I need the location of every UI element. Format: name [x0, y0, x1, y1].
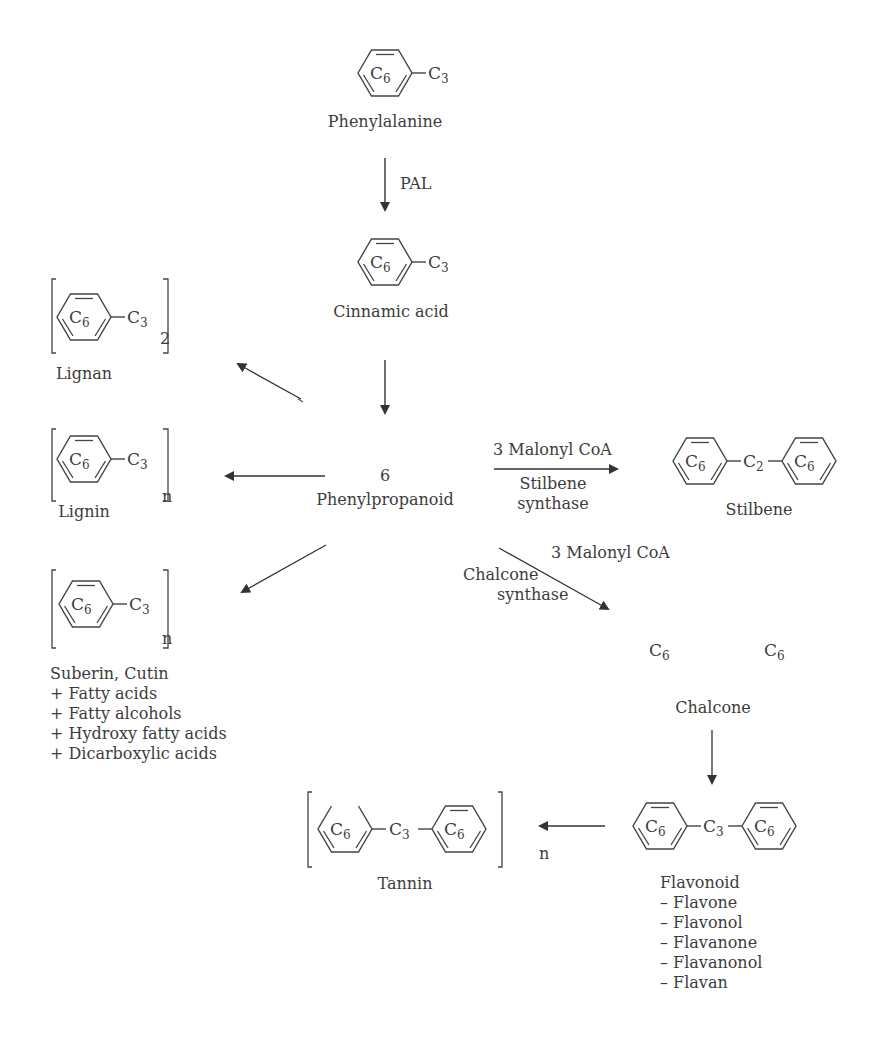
to-lignan-arrow [238, 364, 303, 402]
suberin-description: Suberin, Cutin + Fatty acids + Fatty alc… [50, 664, 227, 764]
phenylpropanoid-label: Phenylpropanoid [316, 490, 454, 510]
svg-text:C6: C6 [69, 449, 90, 472]
stilbene-malonyl-label: 3 Malonyl CoA [493, 440, 612, 460]
cinnamic-acid-structure: C6 C3 [358, 239, 449, 285]
svg-text:C6: C6 [764, 640, 785, 663]
flavonoid-line: – Flavone [660, 893, 762, 913]
tannin-subscript: n [539, 844, 549, 864]
lignin-label: Lignin [58, 502, 110, 522]
suberin-line: + Dicarboxylic acids [50, 744, 227, 764]
svg-text:C6: C6 [444, 819, 465, 842]
lignin-subscript: n [162, 487, 172, 507]
phenylpropanoid-number: 6 [380, 466, 390, 486]
tannin-structure: C6 C3 C6 [308, 792, 502, 867]
svg-text:C3: C3 [129, 594, 150, 617]
svg-text:C3: C3 [428, 63, 449, 86]
stilbene-synthase-label-1: Stilbene [519, 474, 586, 494]
svg-text:C3: C3 [127, 449, 148, 472]
flavonoid-line: – Flavanonol [660, 953, 762, 973]
svg-text:C6: C6 [330, 819, 351, 842]
svg-text:C3: C3 [703, 816, 724, 839]
to-suberin-arrow [242, 545, 326, 592]
chalcone-malonyl-label: 3 Malonyl CoA [551, 543, 670, 563]
chalcone-label: Chalcone [675, 698, 751, 718]
stilbene-label: Stilbene [725, 500, 792, 520]
lignan-structure: C6 C3 [52, 279, 168, 353]
svg-text:C3: C3 [428, 252, 449, 275]
suberin-structure: C6 C3 [52, 570, 168, 648]
svg-text:C3: C3 [127, 307, 148, 330]
suberin-line: + Fatty alcohols [50, 704, 227, 724]
flavonoid-line: – Flavanone [660, 933, 762, 953]
chalcone-structure: C6 C6 [649, 640, 785, 663]
flavonoid-line: – Flavonol [660, 913, 762, 933]
flavonoid-structure: C6 C3 C6 [633, 803, 796, 849]
svg-text:C6: C6 [754, 816, 775, 839]
phenylalanine-label: Phenylalanine [328, 112, 442, 132]
lignin-structure: C6 C3 [52, 429, 168, 501]
svg-text:C3: C3 [389, 819, 410, 842]
suberin-line: + Fatty acids [50, 684, 227, 704]
stilbene-structure: C6 C2 C6 [673, 438, 836, 484]
suberin-subscript: n [162, 629, 172, 649]
suberin-line: + Hydroxy fatty acids [50, 724, 227, 744]
stilbene-synthase-label-2: synthase [517, 494, 589, 514]
svg-text:C6: C6 [370, 63, 391, 86]
svg-text:C6: C6 [71, 594, 92, 617]
svg-text:C2: C2 [743, 451, 764, 474]
svg-text:C6: C6 [370, 252, 391, 275]
svg-text:C6: C6 [794, 451, 815, 474]
chalcone-synthase-label-1: Chalcone [463, 565, 539, 585]
phenylalanine-structure: C6 C3 [358, 50, 449, 96]
tannin-label: Tannin [378, 874, 433, 894]
flavonoid-line: Flavonoid [660, 873, 762, 893]
chalcone-synthase-label-2: synthase [497, 585, 569, 605]
svg-text:C6: C6 [645, 816, 666, 839]
lignan-label: Lignan [56, 364, 112, 384]
flavonoid-description: Flavonoid – Flavone – Flavonol – Flavano… [660, 873, 762, 993]
svg-text:C6: C6 [685, 451, 706, 474]
cinnamic-acid-label: Cinnamic acid [333, 302, 449, 322]
svg-text:C6: C6 [69, 307, 90, 330]
flavonoid-line: – Flavan [660, 973, 762, 993]
svg-text:C6: C6 [649, 640, 670, 663]
suberin-line: Suberin, Cutin [50, 664, 227, 684]
pal-label: PAL [400, 174, 431, 194]
lignan-subscript: 2 [160, 329, 170, 349]
